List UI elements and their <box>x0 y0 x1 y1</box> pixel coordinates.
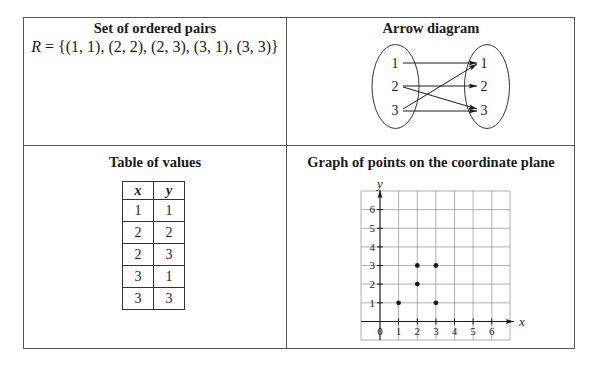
y-tick-2: 2 <box>370 278 376 290</box>
domain-label-2: 2 <box>392 79 399 94</box>
y-tick-4: 4 <box>370 241 376 253</box>
domain-label-3: 3 <box>392 103 399 118</box>
x-tick-6: 6 <box>489 325 495 337</box>
range-label-2: 2 <box>481 79 488 94</box>
point-1-1 <box>396 300 401 305</box>
x-axis-label: x <box>518 314 525 329</box>
x-tick-0: 0 <box>377 325 383 337</box>
y-tick-6: 6 <box>370 203 376 215</box>
arrow-2-to-3 <box>403 87 477 109</box>
arrow-diagram: 1 2 3 1 2 3 <box>372 45 510 129</box>
x-tick-2: 2 <box>415 325 421 337</box>
diagram-canvas: 1 2 3 1 2 3 <box>0 0 602 369</box>
point-3-3 <box>434 263 439 268</box>
point-2-2 <box>415 282 420 287</box>
point-2-3 <box>415 263 420 268</box>
domain-label-1: 1 <box>392 56 399 71</box>
x-tick-3: 3 <box>433 325 439 337</box>
point-3-1 <box>434 300 439 305</box>
x-tick-4: 4 <box>452 325 458 337</box>
x-tick-5: 5 <box>470 325 476 337</box>
y-tick-5: 5 <box>370 222 376 234</box>
y-axis-label: y <box>375 176 383 191</box>
range-label-3: 3 <box>481 103 488 118</box>
x-tick-1: 1 <box>396 325 402 337</box>
y-tick-1: 1 <box>370 297 376 309</box>
range-label-1: 1 <box>481 56 488 71</box>
coordinate-graph: y x 1 2 3 4 5 6 0 1 2 3 4 5 <box>361 176 525 340</box>
y-tick-3: 3 <box>370 259 376 271</box>
